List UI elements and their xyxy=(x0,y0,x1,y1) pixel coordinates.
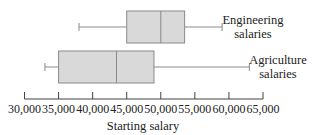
x-tick-label: 45,000 xyxy=(110,102,143,116)
iqr-box xyxy=(127,11,185,43)
iqr-box xyxy=(59,51,154,83)
boxplot-chart: EngineeringsalariesAgriculturesalaries 3… xyxy=(0,0,321,135)
x-tick-label: 35,000 xyxy=(42,102,75,116)
series-label: Engineering xyxy=(222,13,284,27)
x-tick-label: 30,000 xyxy=(8,102,41,116)
box-plot-agriculture: Agriculturesalaries xyxy=(45,51,307,83)
series-label: salaries xyxy=(259,67,297,81)
series-label: salaries xyxy=(234,27,272,41)
box-plots: EngineeringsalariesAgriculturesalaries xyxy=(45,11,307,83)
x-tick-label: 60,000 xyxy=(212,102,245,116)
x-axis-label: Starting salary xyxy=(107,119,180,133)
x-axis: 30,00035,00040,00045,00050,00055,00060,0… xyxy=(8,92,280,116)
series-label: Agriculture xyxy=(249,53,307,67)
x-tick-label: 40,000 xyxy=(76,102,109,116)
x-tick-label: 50,000 xyxy=(144,102,177,116)
x-tick-label: 55,000 xyxy=(178,102,211,116)
x-tick-label: 65,000 xyxy=(247,102,280,116)
box-plot-engineering: Engineeringsalaries xyxy=(79,11,284,43)
